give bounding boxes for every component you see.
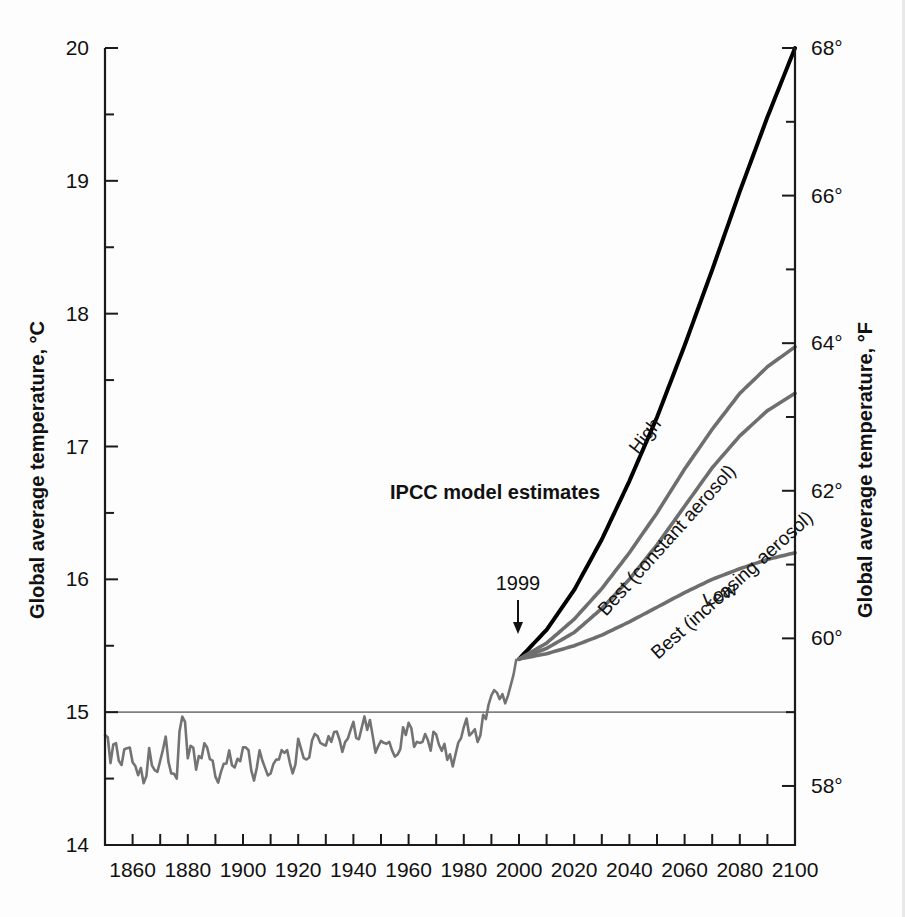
bottom-tick-label: 2000 [496, 858, 543, 881]
chart-svg: 20191817161514 68°66°64°62°60°58° 186018… [0, 0, 905, 917]
right-tick-label: 64° [811, 331, 843, 354]
right-axis-title: Global average temperature, °F [854, 322, 876, 618]
bottom-tick-label: 1960 [385, 858, 432, 881]
right-tick-label: 68° [811, 36, 843, 59]
left-tick-label: 18 [66, 302, 89, 325]
bottom-tick-label: 1980 [440, 858, 487, 881]
chart-figure: 20191817161514 68°66°64°62°60°58° 186018… [0, 0, 905, 917]
right-tick-label: 58° [811, 774, 843, 797]
bottom-tick-label: 2060 [661, 858, 708, 881]
chart-background [0, 0, 905, 917]
left-tick-label: 20 [66, 36, 89, 59]
bottom-tick-label: 1860 [109, 858, 156, 881]
left-tick-label: 14 [66, 833, 90, 856]
right-tick-label: 62° [811, 479, 843, 502]
bottom-tick-label: 2040 [606, 858, 653, 881]
right-tick-label: 66° [811, 184, 843, 207]
bottom-tick-label: 1940 [330, 858, 377, 881]
left-tick-label: 19 [66, 169, 89, 192]
ipcc-model-estimates-label: IPCC model estimates [390, 481, 600, 503]
left-tick-label: 15 [66, 700, 89, 723]
bottom-tick-label: 1900 [220, 858, 267, 881]
left-tick-label: 17 [66, 435, 89, 458]
right-tick-label: 60° [811, 626, 843, 649]
bottom-tick-label: 2080 [716, 858, 763, 881]
bottom-tick-label: 1920 [275, 858, 322, 881]
year-1999-label: 1999 [496, 572, 541, 594]
bottom-tick-label: 1880 [164, 858, 211, 881]
bottom-tick-label: 2100 [772, 858, 819, 881]
left-axis-title: Global average temperature, °C [26, 321, 48, 619]
bottom-tick-label: 2020 [551, 858, 598, 881]
left-tick-label: 16 [66, 567, 89, 590]
